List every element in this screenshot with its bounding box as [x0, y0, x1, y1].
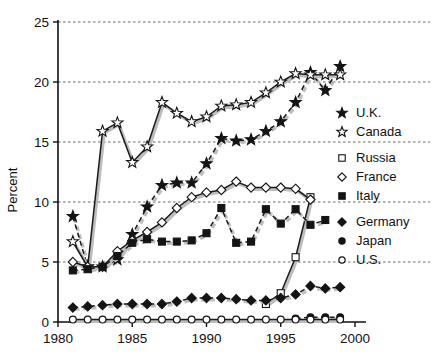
x-tick-label: 2000	[340, 331, 370, 346]
marker-square-filled	[339, 193, 345, 199]
marker-square-filled	[69, 267, 76, 274]
marker-circle-open	[114, 316, 121, 323]
marker-square-filled	[203, 230, 210, 237]
x-tick-label: 1985	[117, 331, 147, 346]
y-tick-label: 25	[34, 15, 49, 30]
legend-label: U.K.	[356, 105, 381, 120]
marker-square-filled	[307, 221, 314, 228]
marker-square-filled	[292, 206, 299, 213]
marker-circle-open	[84, 316, 91, 323]
marker-square-filled	[129, 239, 136, 246]
marker-circle-open	[322, 316, 329, 323]
marker-circle-open	[263, 316, 270, 323]
marker-circle-open	[69, 316, 76, 323]
marker-circle-open	[129, 316, 136, 323]
marker-circle-filled	[339, 238, 345, 244]
y-axis-title: Percent	[5, 167, 20, 212]
marker-square-filled	[218, 205, 225, 212]
marker-square-filled	[173, 238, 180, 245]
percent-line-chart: 051015202519801985199019952000 Percent U…	[0, 0, 436, 354]
marker-circle-open	[173, 316, 180, 323]
marker-circle-open	[248, 316, 255, 323]
chart-figure: 051015202519801985199019952000 Percent U…	[0, 0, 436, 354]
y-tick-label: 0	[41, 315, 49, 330]
y-tick-label: 5	[41, 255, 49, 270]
marker-square-filled	[84, 266, 91, 273]
marker-circle-open	[233, 316, 240, 323]
marker-circle-open	[277, 316, 284, 323]
marker-circle-open	[292, 316, 299, 323]
marker-square-filled	[322, 217, 329, 224]
legend-label: Italy	[356, 188, 380, 203]
legend-label: Japan	[356, 233, 391, 248]
marker-circle-open	[159, 316, 166, 323]
marker-square-filled	[99, 263, 106, 270]
legend-label: Germany	[356, 214, 410, 229]
marker-square-filled	[248, 238, 255, 245]
x-tick-label: 1980	[43, 331, 73, 346]
marker-square-filled	[158, 238, 165, 245]
marker-circle-open	[144, 316, 151, 323]
legend-label: U.S.	[356, 252, 381, 267]
marker-square-filled	[233, 239, 240, 246]
marker-circle-open	[339, 257, 345, 263]
marker-square-filled	[262, 206, 269, 213]
marker-circle-open	[203, 316, 210, 323]
marker-circle-open	[188, 316, 195, 323]
marker-square-filled	[188, 237, 195, 244]
marker-square-open	[292, 254, 299, 261]
marker-square-filled	[144, 236, 151, 243]
marker-circle-open	[307, 316, 314, 323]
y-tick-label: 10	[34, 195, 49, 210]
marker-square-open	[339, 155, 345, 161]
marker-square-filled	[277, 220, 284, 227]
marker-circle-open	[99, 316, 106, 323]
marker-circle-open	[337, 316, 344, 323]
x-tick-label: 1990	[191, 331, 221, 346]
y-tick-label: 15	[34, 135, 49, 150]
legend-label: Russia	[356, 150, 397, 165]
y-axis-label: Percent	[5, 167, 20, 212]
legend-label: Canada	[356, 124, 402, 139]
y-tick-label: 20	[34, 75, 49, 90]
x-tick-label: 1995	[266, 331, 296, 346]
legend-label: France	[356, 169, 396, 184]
marker-circle-open	[218, 316, 225, 323]
marker-square-filled	[114, 253, 121, 260]
